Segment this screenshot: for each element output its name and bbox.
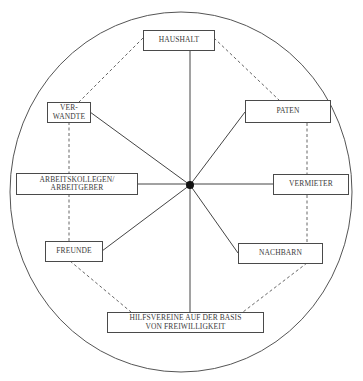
center-hub xyxy=(186,181,194,189)
node-label-line-2: VON FREIWILLIGKEIT xyxy=(146,323,226,332)
node-label: NACHBARN xyxy=(259,249,302,258)
node-paten: PATEN xyxy=(245,100,331,123)
node-label: FREUNDE xyxy=(56,247,91,256)
support-network-diagram: HAUSHALT PATEN VERMIETER NACHBARN HILFSV… xyxy=(0,0,363,381)
node-haushalt: HAUSHALT xyxy=(143,30,215,51)
node-label-line-2: WANDTE xyxy=(53,113,85,122)
node-nachbarn: NACHBARN xyxy=(238,243,323,264)
node-verwandte: VER- WANDTE xyxy=(47,102,91,123)
node-arbeitskollegen: ARBEITSKOLLEGEN/ ARBEITGEBER xyxy=(16,173,138,195)
node-label: HAUSHALT xyxy=(159,36,200,45)
node-label-line-2: ARBEITGEBER xyxy=(51,184,104,193)
node-hilfsvereine: HILFSVEREINE AUF DER BASIS VON FREIWILLI… xyxy=(107,312,264,333)
node-freunde: FREUNDE xyxy=(45,241,103,262)
node-label: VERMIETER xyxy=(289,180,333,189)
node-vermieter: VERMIETER xyxy=(273,174,349,195)
node-label: PATEN xyxy=(276,107,299,116)
